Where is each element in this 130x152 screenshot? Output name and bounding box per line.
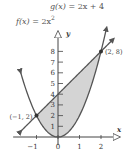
y-tick-label: 8 xyxy=(51,48,55,56)
x-tick-label: −1 xyxy=(27,143,37,151)
y-tick-label: 5 xyxy=(51,80,55,88)
y-tick-label: 6 xyxy=(51,69,56,77)
y-tick-label: 7 xyxy=(51,59,55,67)
x-axis-label: x xyxy=(116,125,122,134)
y-tick-label: 3 xyxy=(51,101,55,109)
shaded-region xyxy=(37,51,102,137)
x-tick-label: 2 xyxy=(99,143,103,151)
y-tick-label: 4 xyxy=(51,91,56,99)
intersection-point xyxy=(35,114,39,118)
y-axis-label: y xyxy=(65,29,71,38)
x-tick-label: 1 xyxy=(77,143,81,151)
y-tick-label: 2 xyxy=(51,112,55,120)
x-tick-label: 0 xyxy=(56,143,60,151)
y-tick-label: 1 xyxy=(51,123,55,131)
point-label: (2, 8) xyxy=(105,48,123,56)
function-plot: xy−101212345678(−1, 2)(2, 8) xyxy=(0,0,130,152)
intersection-point xyxy=(99,49,103,53)
point-label: (−1, 2) xyxy=(10,113,33,121)
